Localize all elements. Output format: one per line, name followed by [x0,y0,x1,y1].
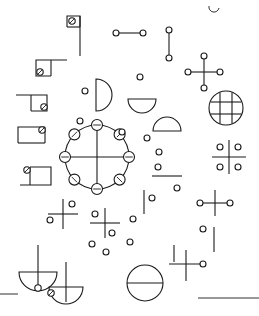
dot-n [77,118,83,124]
dot-e [156,149,162,155]
glyph-svg [0,0,259,316]
quad-dot-nw [217,144,223,150]
dot-l [103,249,109,255]
cross-rnb-node-right [200,261,206,267]
dot-a [82,88,88,94]
bowl-left-node [35,285,41,291]
cross-dots-upper-dot-sw [47,217,53,223]
dumbbell-v-node-bottom [166,55,172,61]
quad-dot-cross [212,140,246,174]
quad-dot-se [235,164,241,170]
dot-g [174,185,180,191]
cross4-node-top [201,53,207,59]
cross-dots-lower-dot-se [109,230,115,236]
cross4-node-right [217,69,223,75]
cross-rn-node-right [227,200,233,206]
quad-dot-ne [235,144,241,150]
dot-j [200,226,206,232]
drawing-canvas [0,0,259,316]
dot-c [119,129,125,135]
quad-dot-sw [217,164,223,170]
dumbbell-h-node-left [113,30,119,36]
dot-h [149,195,155,201]
dot-d [144,135,150,141]
cross-dots-upper-dot-ne [69,201,75,207]
cross4-node-bottom [201,85,207,91]
dot-k [89,241,95,247]
dumbbell-v-node-top [166,27,172,33]
dot-f [155,164,161,170]
dot-m [127,239,133,245]
dot-b [137,74,143,80]
dumbbell-h-node-right [140,30,146,36]
cross-dots-lower-dot-nw [92,211,98,217]
cross-rn-node-left [197,200,203,206]
dot-i [130,216,136,222]
cross4-node-left [185,69,191,75]
